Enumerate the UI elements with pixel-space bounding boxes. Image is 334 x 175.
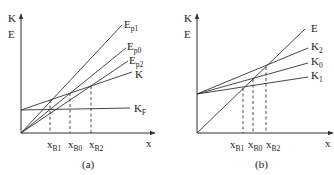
break-even-diagrams: K E x Ep1 Ep0 Ep2 K KF xB1 xB0 xB2 (a) K… bbox=[0, 0, 334, 175]
line-k2 bbox=[197, 48, 308, 94]
label-k: K bbox=[135, 68, 143, 80]
line-ep1 bbox=[21, 25, 122, 133]
caption-b: (b) bbox=[255, 158, 268, 171]
line-ep0 bbox=[21, 48, 126, 133]
line-kf bbox=[21, 108, 130, 110]
tick-xb0: xB0 bbox=[68, 138, 83, 153]
y-label-e: E bbox=[184, 28, 191, 40]
y-label-e: E bbox=[8, 28, 15, 40]
label-e: E bbox=[311, 22, 318, 34]
x-label: x bbox=[146, 137, 152, 149]
label-k2: K2 bbox=[311, 40, 323, 55]
line-k0 bbox=[197, 63, 308, 94]
x-label: x bbox=[325, 137, 331, 149]
label-ep1: Ep1 bbox=[124, 18, 138, 33]
tick-xb0: xB0 bbox=[248, 138, 263, 153]
label-kf: KF bbox=[134, 102, 146, 117]
panel-a: K E x Ep1 Ep0 Ep2 K KF xB1 xB0 xB2 (a) bbox=[8, 12, 155, 171]
label-ep2: Ep2 bbox=[129, 54, 143, 69]
label-k0: K0 bbox=[311, 55, 323, 70]
tick-xb1: xB1 bbox=[47, 138, 62, 153]
y-label-k: K bbox=[184, 12, 192, 24]
tick-xb2: xB2 bbox=[266, 138, 281, 153]
line-e bbox=[197, 29, 305, 133]
label-k1: K1 bbox=[311, 69, 323, 84]
line-k bbox=[21, 72, 132, 110]
panel-b: K E x E K2 K0 K1 xB1 xB0 xB2 (b) bbox=[184, 12, 333, 171]
line-ep2 bbox=[21, 61, 128, 133]
tick-xb2: xB2 bbox=[89, 138, 104, 153]
label-ep0: Ep0 bbox=[127, 40, 141, 55]
y-label-k: K bbox=[8, 12, 16, 24]
tick-xb1: xB1 bbox=[230, 138, 245, 153]
caption-a: (a) bbox=[82, 158, 95, 171]
